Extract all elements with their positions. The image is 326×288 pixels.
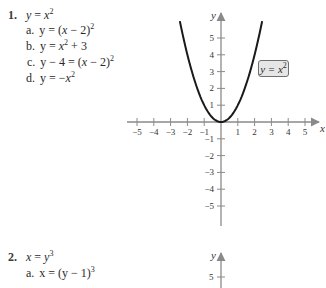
x-tick-label: −4	[149, 127, 159, 137]
x-tick-label: 5	[303, 127, 308, 137]
x-axis-label: x	[319, 122, 325, 134]
x-tick-label: 2	[252, 127, 257, 137]
y-tick-label: −5	[204, 201, 214, 211]
y-tick-label: −2	[204, 151, 214, 161]
y-tick-label: 3	[210, 67, 215, 77]
y-tick-label: 5	[210, 33, 215, 43]
curve-label-y-equals-x-squared: y = x2	[258, 60, 289, 77]
label-lhs: y =	[260, 63, 278, 75]
graphs-canvas: −5−4−3−2−112345−5−4−3−2−112345 x y 5 y	[0, 0, 326, 288]
x-tick-label: −2	[183, 127, 193, 137]
x-tick-label: −3	[166, 127, 176, 137]
label-exp: 2	[283, 61, 287, 70]
y-tick-label: 4	[210, 50, 215, 60]
y-tick-label: 2	[210, 83, 215, 93]
y-tick-label: 1	[210, 100, 215, 110]
x-tick-label: −5	[132, 127, 142, 137]
graph-2-y-axis-label: y	[210, 249, 216, 261]
x-tick-label: 4	[286, 127, 291, 137]
y-tick-label: −4	[204, 184, 214, 194]
y-tick-label: −1	[204, 134, 214, 144]
y-tick-label: −3	[204, 167, 214, 177]
y-axis-label: y	[210, 9, 216, 21]
x-tick-label: 1	[236, 127, 241, 137]
graph-1-axes	[127, 13, 319, 226]
x-tick-label: 3	[269, 127, 274, 137]
graph-2-tick-label-5: 5	[209, 272, 214, 282]
